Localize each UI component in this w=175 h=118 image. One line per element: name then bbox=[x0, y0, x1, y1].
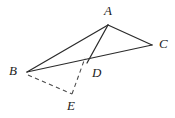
vertex-label-c: C bbox=[159, 37, 168, 50]
vertex-label-d: D bbox=[92, 66, 101, 79]
segment-ED bbox=[72, 58, 85, 94]
geometry-canvas bbox=[0, 0, 175, 118]
segment-BE bbox=[28, 75, 72, 94]
vertex-label-b: B bbox=[9, 64, 17, 77]
segment-BC bbox=[27, 45, 152, 72]
geometry-figure: A B C D E bbox=[0, 0, 175, 118]
segment-AC bbox=[108, 25, 152, 45]
vertex-label-a: A bbox=[104, 4, 112, 17]
vertex-label-e: E bbox=[67, 99, 75, 112]
